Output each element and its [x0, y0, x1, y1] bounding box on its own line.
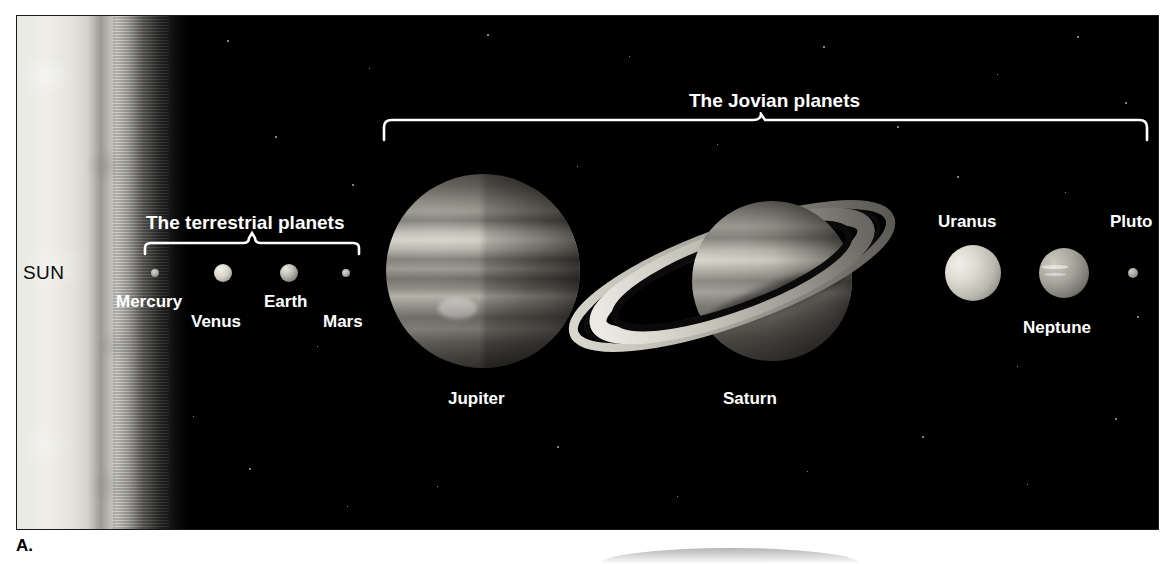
- planet-label-neptune: Neptune: [1023, 318, 1091, 338]
- planet-saturn: [557, 126, 907, 416]
- figure-caption: A.: [16, 536, 33, 556]
- planet-jupiter: [386, 174, 580, 368]
- planet-pluto: [1128, 268, 1138, 278]
- planet-label-mars: Mars: [323, 312, 363, 332]
- planet-label-venus: Venus: [191, 312, 241, 332]
- planet-label-saturn: Saturn: [723, 389, 777, 409]
- planet-label-pluto: Pluto: [1110, 212, 1153, 232]
- sun-limb-striations: [113, 16, 169, 529]
- planet-mercury: [151, 269, 159, 277]
- planet-label-jupiter: Jupiter: [448, 389, 505, 409]
- planet-venus: [214, 264, 232, 282]
- planet-mars: [342, 269, 350, 277]
- jupiter-shading: [386, 174, 580, 368]
- planet-earth: [280, 264, 298, 282]
- planet-label-earth: Earth: [264, 292, 307, 312]
- planet-label-uranus: Uranus: [938, 212, 997, 232]
- terrestrial-group-label: The terrestrial planets: [146, 212, 345, 234]
- planet-neptune: [1039, 248, 1089, 298]
- saturn-rings-front: [557, 126, 907, 416]
- jovian-group-label: The Jovian planets: [689, 90, 860, 112]
- next-figure-edge: [600, 548, 860, 564]
- neptune-cloud-bands: [1039, 248, 1089, 298]
- planet-uranus: [945, 245, 1001, 301]
- planet-label-mercury: Mercury: [116, 292, 182, 312]
- solar-system-figure: SUN The terrestrial planets The Jovian p…: [16, 15, 1159, 530]
- sun-label: SUN: [23, 262, 64, 284]
